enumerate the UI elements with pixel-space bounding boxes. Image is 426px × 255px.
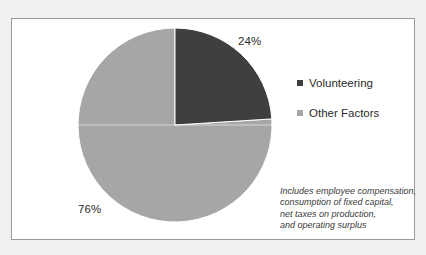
- annotation-line-4: and operating surplus: [280, 220, 420, 231]
- legend-item-other-factors[interactable]: Other Factors: [297, 106, 409, 120]
- legend-item-volunteering[interactable]: Volunteering: [297, 76, 409, 90]
- annotation-line-1: Includes employee compensation,: [280, 186, 420, 197]
- legend-label-volunteering: Volunteering: [309, 76, 373, 90]
- chart-container: 24% 76% Volunteering Other Factors Inclu…: [0, 0, 426, 255]
- data-label-volunteering: 24%: [238, 35, 261, 47]
- data-label-other-factors: 76%: [78, 203, 101, 215]
- chart-annotation: Includes employee compensation, consumpt…: [280, 186, 420, 232]
- chart-legend: Volunteering Other Factors: [297, 76, 409, 136]
- annotation-line-3: net taxes on production,: [280, 209, 420, 220]
- legend-swatch-icon-other-factors: [297, 110, 303, 116]
- annotation-line-2: consumption of fixed capital,: [280, 197, 420, 208]
- legend-swatch-icon-volunteering: [297, 80, 303, 86]
- legend-label-other-factors: Other Factors: [309, 106, 379, 120]
